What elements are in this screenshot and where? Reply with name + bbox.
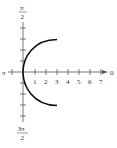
polar-graph: π 0 π 2 3π 2 1 2 3 4 5 6 7 bbox=[0, 0, 117, 148]
svg-text:1: 1 bbox=[33, 78, 37, 86]
polar-curve bbox=[23, 40, 57, 106]
label-top-num: π bbox=[20, 4, 24, 12]
svg-text:2: 2 bbox=[44, 78, 48, 86]
svg-text:5: 5 bbox=[77, 78, 81, 86]
label-bottom-num: 3π bbox=[18, 125, 26, 133]
svg-text:6: 6 bbox=[88, 78, 92, 86]
label-top-den: 2 bbox=[21, 13, 25, 21]
svg-text:3: 3 bbox=[55, 78, 59, 86]
label-zero: 0 bbox=[110, 69, 114, 77]
arrow-icon bbox=[102, 70, 108, 74]
label-bottom-den: 2 bbox=[21, 134, 25, 142]
svg-text:7: 7 bbox=[99, 78, 103, 86]
svg-text:4: 4 bbox=[66, 78, 70, 86]
label-pi: π bbox=[2, 69, 6, 77]
tick-labels: 1 2 3 4 5 6 7 bbox=[33, 78, 103, 86]
